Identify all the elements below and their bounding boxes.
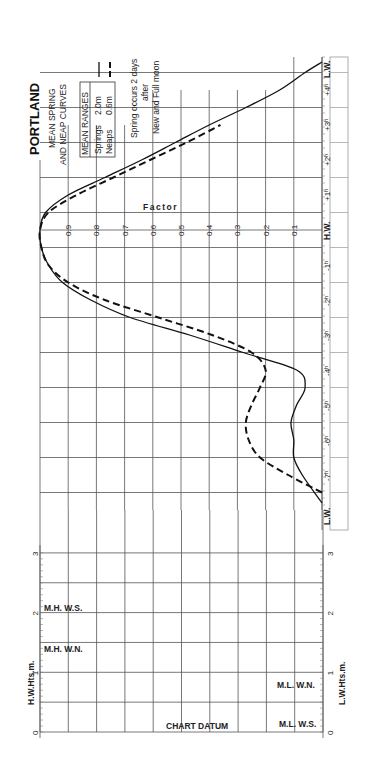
note-line-1: Spring occurs 2 days (129, 59, 139, 138)
time-tick-label: -7ʰ (323, 471, 332, 481)
time-tick-label: -2ʰ (323, 296, 332, 306)
time-tick-label: -3ʰ (323, 331, 332, 341)
legend-header: MEAN RANGES (80, 92, 90, 155)
factor-axis-labels: 0.90.80.70.60.50.40.30.20.1 (64, 224, 299, 236)
lw-height-tick-label: 3 (326, 551, 335, 556)
tidal-curve-chart: 0.90.80.70.60.50.40.30.20.1 L.W.-7ʰ-6ʰ-5… (0, 0, 370, 766)
factor-axis-title: Factor (143, 202, 178, 212)
lw-height-tick-label: 2 (326, 611, 335, 616)
time-tick-label: -6ʰ (323, 436, 332, 446)
legend: MEAN RANGES Springs 2.0m Neaps 0.6m (80, 62, 115, 157)
hw-heights-label: H.W.Hts.m. (26, 661, 36, 705)
hw-height-tick-label: 3 (31, 551, 40, 556)
mlwn-label: M.L. W.N. (277, 680, 315, 690)
lw-heights-label: L.W.Hts.m. (337, 662, 347, 705)
height-scale-grid (40, 510, 323, 732)
time-tick-label: +2ʰ (323, 154, 332, 166)
height-scale-labels: H.W.Hts.m. L.W.Hts.m. M.H. W.S. M.H. W.N… (26, 603, 347, 731)
time-axis-strip (330, 57, 348, 530)
factor-tick-label: 0.1 (290, 224, 299, 236)
factor-tick-label: 0.4 (205, 224, 214, 236)
chart-subtitle-1: MEAN SPRING (47, 88, 57, 148)
title-block: PORTLAND MEAN SPRING AND NEAP CURVES (27, 83, 68, 165)
time-tick-label: L.W. (322, 508, 332, 525)
factor-tick-label: 0.3 (233, 224, 242, 236)
factor-tick-label: 0.7 (121, 224, 130, 236)
time-tick-label: +3ʰ (323, 119, 332, 131)
chart-subtitle-2: AND NEAP CURVES (58, 84, 68, 165)
chart-title: PORTLAND (27, 83, 42, 155)
hw-height-tick-label: 2 (31, 611, 40, 616)
time-tick-label: -4ʰ (323, 366, 332, 376)
time-tick-label: +4ʰ (323, 84, 332, 96)
time-tick-label: H.W. (322, 222, 332, 240)
time-tick-label: +1ʰ (323, 189, 332, 201)
legend-neaps-label: Neaps (104, 129, 114, 154)
time-axis-labels: L.W.-7ʰ-6ʰ-5ʰ-4ʰ-3ʰ-2ʰ-1ʰH.W.+1ʰ+2ʰ+3ʰ+4… (322, 61, 332, 525)
factor-tick-label: 0.6 (149, 224, 158, 236)
factor-tick-label: 0.8 (92, 224, 101, 236)
hw-height-tick-label: 1 (31, 670, 40, 675)
legend-neaps-value: 0.6m (104, 96, 114, 115)
mhwn-label: M.H. W.N. (44, 644, 83, 654)
lw-height-tick-label: 1 (326, 670, 335, 675)
height-scale-ticks: 00112233 (31, 545, 335, 738)
note-line-3: New and Full moon (151, 60, 161, 134)
factor-tick-label: 0.2 (262, 224, 271, 236)
time-tick-label: -1ʰ (323, 261, 332, 271)
factor-tick-label: 0.5 (177, 224, 186, 236)
chart-datum-label: CHART DATUM (166, 721, 228, 731)
mlws-label: M.L. W.S. (279, 719, 316, 729)
lw-height-tick-label: 0 (326, 730, 335, 735)
mhws-label: M.H. W.S. (44, 603, 82, 613)
hw-height-tick-label: 0 (31, 730, 40, 735)
spring-note: Spring occurs 2 days after New and Full … (129, 59, 161, 138)
time-tick-label: -5ʰ (323, 401, 332, 411)
note-line-2: after (140, 84, 150, 101)
legend-springs-label: Springs (93, 125, 103, 154)
factor-tick-label: 0.9 (64, 224, 73, 236)
legend-springs-value: 2.0m (93, 96, 103, 115)
time-tick-label: L.W. (322, 61, 332, 78)
